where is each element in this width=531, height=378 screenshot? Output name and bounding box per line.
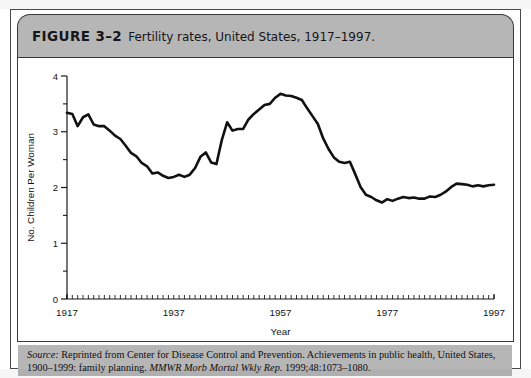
y-tick-label: 2 — [53, 182, 58, 193]
source-note: Source: Reprinted from Center for Diseas… — [18, 345, 512, 376]
y-tick-label: 0 — [53, 294, 58, 305]
source-body-2: 1999;48:1073–1080. — [282, 362, 370, 373]
x-tick-label: 1997 — [483, 307, 505, 318]
y-axis-title: No. Children Per Woman — [25, 133, 36, 242]
x-tick-label: 1977 — [376, 307, 398, 318]
y-tick-label: 3 — [53, 126, 58, 137]
x-axis-title: Year — [271, 326, 292, 337]
x-tick-label: 1957 — [270, 307, 292, 318]
fertility-rate-line — [67, 94, 494, 203]
fertility-rate-line-chart: 01234 19171937195719771997 YearNo. Child… — [18, 58, 513, 341]
x-axis: 19171937195719771997 — [56, 294, 505, 318]
source-prefix: Source: — [27, 349, 59, 360]
y-axis: 01234 — [53, 71, 67, 305]
figure-number-label: FIGURE 3–2 — [32, 28, 122, 44]
fertility-rate-series — [67, 94, 494, 203]
y-tick-label: 4 — [53, 71, 58, 82]
scan-edge-top — [0, 0, 531, 9]
y-tick-label: 1 — [53, 238, 58, 249]
x-tick-label: 1917 — [56, 307, 78, 318]
source-journal: MMWR Morb Mortal Wkly Rep. — [149, 362, 282, 373]
figure-caption-text: FIGURE 3–2Fertility rates, United States… — [32, 27, 375, 45]
chart-panel: 01234 19171937195719771997 YearNo. Child… — [17, 57, 514, 342]
x-tick-label: 1937 — [163, 307, 185, 318]
figure-caption-header: FIGURE 3–2Fertility rates, United States… — [17, 14, 514, 57]
figure-title-label: Fertility rates, United States, 1917–199… — [128, 30, 375, 44]
